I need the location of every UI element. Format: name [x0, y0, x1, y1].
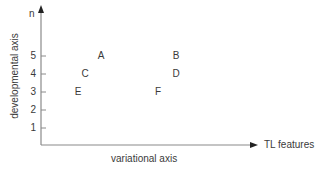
point-label-e: E — [75, 87, 82, 97]
y-axis-ticks — [41, 56, 46, 128]
point-label-b: B — [173, 51, 180, 61]
y-tick-label: 3 — [26, 87, 36, 97]
point-label-c: C — [81, 69, 88, 79]
x-axis-title: variational axis — [111, 154, 177, 164]
y-axis-end-label: n — [29, 9, 35, 19]
x-axis-arrow-icon — [250, 142, 258, 148]
y-tick-label: 5 — [26, 51, 36, 61]
y-tick-label: 2 — [26, 105, 36, 115]
y-axis-title: developmental axis — [10, 33, 20, 119]
y-tick-label: 1 — [26, 123, 36, 133]
point-label-f: F — [155, 87, 161, 97]
point-label-d: D — [172, 69, 179, 79]
y-tick-label: 4 — [26, 69, 36, 79]
y-axis-arrow-icon — [38, 5, 44, 13]
x-axis-end-label: TL features — [264, 140, 314, 150]
point-label-a: A — [98, 51, 105, 61]
